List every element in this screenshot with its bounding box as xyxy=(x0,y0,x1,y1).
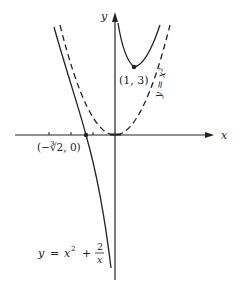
main-equation-label: y = x 2 + 2 x xyxy=(37,241,104,265)
x-axis-label: x xyxy=(221,129,228,142)
svg-text:+: + xyxy=(82,247,91,260)
svg-text:x: x xyxy=(64,247,71,260)
svg-text:2: 2 xyxy=(97,241,103,252)
root-point-marker xyxy=(84,133,88,137)
svg-text:x: x xyxy=(97,254,103,265)
svg-text:y: y xyxy=(37,247,45,260)
min-point-label: (1, 3) xyxy=(119,74,149,87)
y-axis-arrow-icon xyxy=(112,12,118,22)
parabola-label: y = x² xyxy=(152,67,168,99)
curve-right-branch xyxy=(118,23,160,67)
svg-text:2: 2 xyxy=(71,245,75,253)
svg-text:=: = xyxy=(50,247,59,260)
x-axis-arrow-icon xyxy=(205,132,214,138)
function-graph: y x (1, 3) (−∛2, 0) y = x² y = x 2 + 2 x xyxy=(0,0,241,281)
y-axis-label: y xyxy=(100,10,108,23)
min-point-marker xyxy=(132,65,136,69)
root-point-label: (−∛2, 0) xyxy=(37,141,81,153)
